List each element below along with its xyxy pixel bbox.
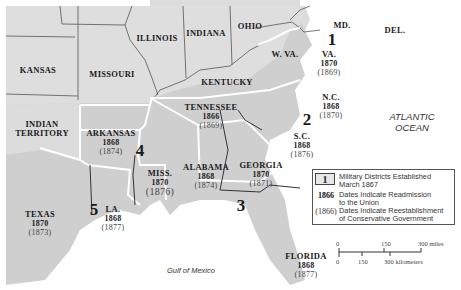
state-label-ohio: OHIO xyxy=(238,22,262,31)
conservative-year: (1877) xyxy=(285,270,326,279)
state-label-kansas: KANSAS xyxy=(20,66,56,75)
conservative-year: (1874) xyxy=(86,147,135,156)
legend-row-readmission: 1866 Dates Indicate Readmissionto the Un… xyxy=(315,191,431,206)
readmission-year: 1868 xyxy=(86,138,135,147)
state-name: MISS. xyxy=(148,168,172,178)
state-label-indian-territory: INDIAN TERRITORY xyxy=(12,120,72,138)
conservative-year: (1871) xyxy=(239,179,282,188)
scale-label: 300 kilometers xyxy=(384,258,423,265)
state-name: S.C. xyxy=(294,131,310,141)
state-label-arkansas: ARKANSAS1868(1874) xyxy=(86,129,135,156)
readmission-year: 1868 xyxy=(285,261,326,270)
legend-paren-key: (1866) xyxy=(315,207,337,216)
state-name: VA. xyxy=(322,49,336,59)
state-label-missouri: MISSOURI xyxy=(89,70,134,79)
state-label-alabama: ALABAMA1868(1874) xyxy=(183,163,229,190)
state-label-texas: TEXAS1870(1873) xyxy=(25,210,55,237)
conservative-year: (1874) xyxy=(183,181,229,190)
legend: 1 Military Districts EstablishedMarch 18… xyxy=(312,169,455,225)
readmission-year: 1868 xyxy=(183,172,229,181)
scale-line xyxy=(338,240,458,270)
conservative-year: (1870) xyxy=(319,111,342,120)
readmission-year: 1866 xyxy=(185,112,238,121)
state-name: N.C. xyxy=(322,92,340,102)
state-name: LA. xyxy=(106,204,121,214)
atlantic-ocean-label: ATLANTICOCEAN xyxy=(389,111,434,133)
state-label-virginia: VA.1870(1869) xyxy=(317,50,340,77)
state-label-tennessee: TENNESSEE1866(1869) xyxy=(185,103,238,130)
state-label-kentucky: KENTUCKY xyxy=(201,78,253,87)
legend-text: to the Union xyxy=(339,199,431,207)
readmission-year: 1868 xyxy=(290,141,313,150)
district-5-marker: 5 xyxy=(90,200,99,220)
state-name: GEORGIA xyxy=(239,160,282,170)
readmission-year: 1868 xyxy=(319,102,342,111)
readmission-year: 1870 xyxy=(317,59,340,68)
legend-row-districts: 1 Military Districts EstablishedMarch 18… xyxy=(315,173,431,188)
state-label-south-carolina: S.C.1868(1876) xyxy=(290,132,313,159)
ocean-line-1: ATLANTIC xyxy=(389,111,434,122)
state-label-indiana: INDIANA xyxy=(186,29,225,38)
ocean-line-2: OCEAN xyxy=(389,122,434,133)
conservative-year: (1876) xyxy=(146,187,174,196)
scale-label: 0 xyxy=(336,258,339,265)
state-label-louisiana: LA.1868(1877) xyxy=(101,205,124,232)
conservative-year: (1877) xyxy=(101,223,124,232)
state-label-north-carolina: N.C.1868(1870) xyxy=(319,93,342,120)
state-label-mississippi: MISS.1870(1876) xyxy=(146,169,174,196)
state-name: ALABAMA xyxy=(183,162,229,172)
legend-text: March 1867 xyxy=(339,181,431,189)
state-label-florida: FLORIDA1868(1877) xyxy=(285,252,326,279)
scale-bar: 0 150 300 miles 0 150 300 kilometers xyxy=(338,240,458,270)
state-name: ARKANSAS xyxy=(86,128,135,138)
state-label-delaware: DEL. xyxy=(385,26,406,35)
legend-bold-key: 1866 xyxy=(315,191,337,200)
state-label-georgia: GEORGIA1870(1871) xyxy=(239,161,282,188)
state-label-illinois: ILLINOIS xyxy=(136,34,177,43)
legend-text: of Conservative Government xyxy=(339,215,443,223)
scale-label: 150 xyxy=(358,258,368,265)
gulf-of-mexico-label: Gulf of Mexico xyxy=(167,266,215,275)
state-name: TENNESSEE xyxy=(185,102,238,112)
state-name: FLORIDA xyxy=(285,251,326,261)
district-1-marker: 1 xyxy=(328,30,337,50)
state-label-maryland: MD. xyxy=(333,21,350,30)
district-box-icon: 1 xyxy=(315,173,335,185)
readmission-year: 1870 xyxy=(25,219,55,228)
conservative-year: (1876) xyxy=(290,150,313,159)
reconstruction-map: KANSAS MISSOURI ILLINOIS INDIANA OHIO KE… xyxy=(0,0,461,290)
conservative-year: (1869) xyxy=(317,68,340,77)
district-2-marker: 2 xyxy=(303,110,312,130)
conservative-year: (1873) xyxy=(25,228,55,237)
state-label-west-virginia: W. VA. xyxy=(272,50,299,59)
readmission-year: 1868 xyxy=(101,214,124,223)
district-4-marker: 4 xyxy=(136,141,145,161)
district-3-marker: 3 xyxy=(237,196,246,216)
state-name: TEXAS xyxy=(25,209,55,219)
legend-row-conservative: (1866) Dates Indicate Reestablishmentof … xyxy=(315,207,443,222)
readmission-year: 1870 xyxy=(239,170,282,179)
conservative-year: (1869) xyxy=(185,121,238,130)
